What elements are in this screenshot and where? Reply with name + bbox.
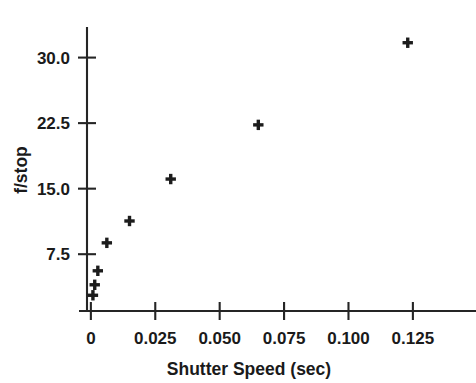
data-point-marker: [102, 238, 112, 248]
y-tick-label: 15.0: [37, 180, 70, 199]
x-tick-label: 0.050: [198, 329, 241, 348]
data-point-marker: [88, 290, 98, 300]
x-axis-title: Shutter Speed (sec): [167, 359, 331, 379]
scatter-plot-figure: 7.515.022.530.0 00.0250.0500.0750.1000.1…: [0, 0, 476, 383]
x-tick-label: 0.025: [134, 329, 177, 348]
y-tick-label: 7.5: [46, 245, 70, 264]
y-axis-title: f/stop: [11, 146, 31, 194]
x-axis-tick-labels: 00.0250.0500.0750.1000.125: [86, 329, 434, 348]
data-point-marker: [166, 174, 176, 184]
x-tick-label: 0: [86, 329, 95, 348]
y-tick-label: 22.5: [37, 114, 70, 133]
x-tick-label: 0.075: [263, 329, 306, 348]
y-axis: 7.515.022.530.0: [37, 27, 96, 311]
x-axis: 00.0250.0500.0750.1000.125: [79, 302, 476, 348]
data-point-marker: [93, 266, 103, 276]
data-point-marker: [253, 120, 263, 130]
plot-canvas: 7.515.022.530.0 00.0250.0500.0750.1000.1…: [0, 0, 476, 383]
data-point-marker: [403, 38, 413, 48]
x-tick-label: 0.125: [392, 329, 435, 348]
data-point-marker: [90, 280, 100, 290]
y-tick-label: 30.0: [37, 49, 70, 68]
data-point-series: [88, 38, 413, 301]
x-tick-label: 0.100: [327, 329, 370, 348]
y-axis-tick-labels: 7.515.022.530.0: [37, 49, 70, 265]
data-point-marker: [124, 216, 134, 226]
